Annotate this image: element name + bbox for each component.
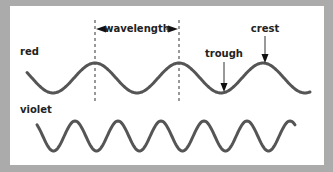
violet-wave bbox=[37, 121, 295, 151]
crest-label: crest bbox=[251, 23, 280, 34]
wave-diagram: wavelength red trough crest violet bbox=[0, 0, 333, 172]
violet-label: violet bbox=[20, 104, 52, 115]
red-label: red bbox=[20, 46, 39, 57]
trough-label: trough bbox=[205, 48, 243, 59]
wavelength-label: wavelength bbox=[104, 23, 170, 34]
red-wave bbox=[27, 63, 310, 93]
